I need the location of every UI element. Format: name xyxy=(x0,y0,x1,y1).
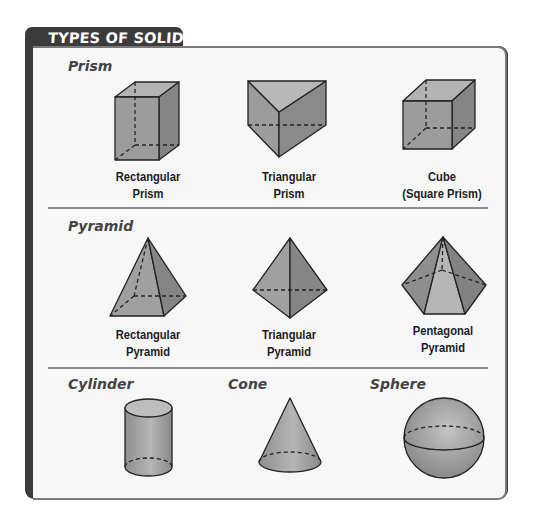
label-pentagonal-pyramid: PentagonalPyramid xyxy=(387,322,499,356)
label-rectangular-pyramid: RectangularPyramid xyxy=(92,326,204,360)
solid-figures xyxy=(0,0,534,518)
cube-icon xyxy=(403,80,475,149)
pentagonal-pyramid-icon xyxy=(402,237,486,314)
sphere-icon xyxy=(404,398,484,478)
label-triangular-pyramid: TriangularPyramid xyxy=(233,326,345,360)
label-triangular-prism: TriangularPrism xyxy=(233,168,345,202)
label-cube: Cube(Square Prism) xyxy=(386,168,498,202)
triangular-prism-icon xyxy=(248,81,326,157)
cone-icon xyxy=(259,398,321,472)
cylinder-icon xyxy=(125,399,172,476)
triangular-pyramid-icon xyxy=(253,238,327,318)
label-rectangular-prism: RectangularPrism xyxy=(92,168,204,202)
rectangular-prism-icon xyxy=(115,82,179,160)
rectangular-pyramid-icon xyxy=(110,238,186,316)
